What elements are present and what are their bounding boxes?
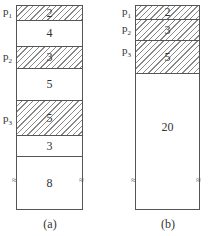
block-b-3-allocated: 5 xyxy=(136,41,199,74)
block-label: 2 xyxy=(47,6,53,21)
block-a-5-allocated: 5 xyxy=(17,101,82,136)
block-label: 3 xyxy=(165,23,171,38)
block-b-4-free: 20 xyxy=(136,74,199,209)
break-mark-icon-right-a: ≈ xyxy=(79,175,84,185)
block-label: 5 xyxy=(47,111,53,126)
block-label: 2 xyxy=(165,5,171,20)
block-label: 8 xyxy=(47,176,53,191)
block-a-6-free: 3 xyxy=(17,136,82,157)
pointer-p1-b: p1 xyxy=(122,5,131,20)
block-a-3-allocated: 3 xyxy=(17,47,82,69)
memory-column-a: 2 4 3 5 5 3 8 xyxy=(16,5,83,210)
pointer-p1-a: p1 xyxy=(3,5,12,20)
pointer-p2-b: p2 xyxy=(122,22,131,37)
caption-b: (b) xyxy=(148,217,188,232)
break-mark-icon-left-a: ≈ xyxy=(12,175,17,185)
block-label: 20 xyxy=(162,120,174,135)
block-label: 5 xyxy=(165,50,171,65)
block-a-4-free: 5 xyxy=(17,69,82,101)
block-a-1-allocated: 2 xyxy=(17,6,82,21)
block-b-2-allocated: 3 xyxy=(136,20,199,41)
block-label: 3 xyxy=(47,139,53,154)
break-mark-icon-right-b: ≈ xyxy=(196,175,201,185)
block-a-2-free: 4 xyxy=(17,21,82,47)
block-label: 5 xyxy=(47,77,53,92)
block-b-1-allocated: 2 xyxy=(136,6,199,20)
pointer-p3-a: p3 xyxy=(3,112,12,127)
break-mark-icon-left-b: ≈ xyxy=(131,175,136,185)
caption-a: (a) xyxy=(30,217,70,232)
memory-column-b: 2 3 5 20 xyxy=(135,5,200,210)
block-label: 4 xyxy=(47,26,53,41)
pointer-p3-b: p3 xyxy=(122,44,131,59)
block-label: 3 xyxy=(47,50,53,65)
block-a-7-free: 8 xyxy=(17,157,82,209)
pointer-p2-a: p2 xyxy=(3,50,12,65)
